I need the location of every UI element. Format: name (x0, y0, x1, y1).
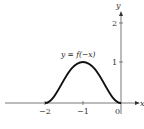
curve-label: y = f(−x) (60, 50, 96, 59)
y-tick-label-2: 2 (112, 19, 117, 28)
y-axis-label: y (115, 1, 121, 10)
x-tick-label-0: 0 (115, 107, 120, 116)
x-tick-label-m1: −1 (77, 107, 89, 116)
y-axis-arrow-icon (119, 11, 123, 16)
chart: x y 2 1 −2 −1 0 y = f(−x) (0, 0, 144, 129)
curve-f-neg-x (45, 62, 121, 103)
x-tick-label-m2: −2 (39, 107, 51, 116)
y-tick-label-1: 1 (112, 58, 117, 67)
x-axis-label: x (140, 99, 144, 108)
